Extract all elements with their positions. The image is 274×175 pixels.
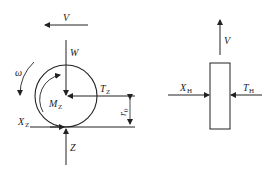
lateral-label-sub: Z bbox=[25, 121, 29, 129]
wheel-free-body: V W M Z ω T Z X Z r 0 Z bbox=[15, 12, 135, 165]
omega-arrow bbox=[20, 62, 34, 95]
force-diagram: V W M Z ω T Z X Z r 0 Z V X bbox=[0, 0, 274, 175]
moment-label: M bbox=[48, 98, 58, 109]
velocity-label: V bbox=[63, 12, 71, 23]
diagram-canvas: V W M Z ω T Z X Z r 0 Z V X bbox=[0, 0, 274, 175]
normal-label: Z bbox=[70, 142, 76, 153]
omega-label: ω bbox=[15, 67, 22, 78]
lateral-label: X bbox=[17, 116, 25, 127]
moment-label-sub: Z bbox=[58, 103, 62, 111]
block-free-body: V X H T H bbox=[168, 20, 262, 129]
radius-label-sub: 0 bbox=[122, 108, 130, 112]
left-force-label: X bbox=[179, 82, 187, 93]
block-velocity-label: V bbox=[224, 35, 232, 46]
traction-label-sub: Z bbox=[106, 88, 110, 96]
weight-label: W bbox=[70, 47, 80, 58]
block-rectangle bbox=[210, 63, 230, 129]
right-force-label-sub: H bbox=[249, 87, 254, 95]
left-force-label-sub: H bbox=[187, 87, 192, 95]
